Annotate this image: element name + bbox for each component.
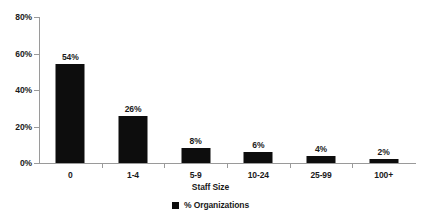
bar[interactable]	[56, 64, 85, 163]
y-axis-tick-label: 40%	[15, 85, 32, 95]
x-axis-tick	[290, 163, 291, 168]
bar-slot: 2%	[352, 17, 415, 163]
x-axis-category-label: 25-99	[310, 170, 331, 180]
x-axis-category-label: 100+	[374, 170, 393, 180]
bar-value-label: 6%	[252, 140, 264, 150]
bar-value-label: 8%	[190, 136, 202, 146]
bar-chart: 54%26%8%6%4%2% 0%20%40%60%80% 01-45-910-…	[0, 0, 421, 221]
x-axis-tick	[352, 163, 353, 168]
bar-slot: 4%	[290, 17, 353, 163]
bar-slot: 6%	[227, 17, 290, 163]
bar-value-label: 2%	[378, 147, 390, 157]
bar[interactable]	[118, 116, 147, 163]
bar-value-label: 54%	[62, 52, 79, 62]
bar[interactable]	[244, 152, 273, 163]
bar-slot: 54%	[39, 17, 102, 163]
x-axis-category-label: 1-4	[127, 170, 139, 180]
filled-square-marker-icon	[172, 202, 179, 209]
bar-slot: 26%	[102, 17, 165, 163]
x-axis-title: Staff Size	[0, 182, 421, 192]
bar[interactable]	[306, 156, 335, 163]
x-axis-category-label: 0	[68, 170, 73, 180]
chart-legend: % Organizations	[0, 200, 421, 210]
bar[interactable]	[369, 159, 398, 163]
bar-slot: 8%	[164, 17, 227, 163]
x-axis-tick	[164, 163, 165, 168]
y-axis-tick-label: 60%	[15, 49, 32, 59]
bar-value-label: 4%	[315, 144, 327, 154]
x-axis-tick	[102, 163, 103, 168]
bar-value-label: 26%	[125, 104, 142, 114]
legend-item-label: % Organizations	[184, 200, 249, 210]
bar[interactable]	[181, 148, 210, 163]
x-axis-category-label: 10-24	[248, 170, 269, 180]
plot-area: 54%26%8%6%4%2%	[39, 17, 415, 163]
legend-item: % Organizations	[172, 200, 249, 210]
y-axis-tick-label: 80%	[15, 12, 32, 22]
x-axis-tick	[227, 163, 228, 168]
y-axis-tick	[34, 163, 39, 164]
x-axis-category-label: 5-9	[190, 170, 202, 180]
y-axis-tick-label: 0%	[20, 158, 32, 168]
y-axis-tick-label: 20%	[15, 122, 32, 132]
